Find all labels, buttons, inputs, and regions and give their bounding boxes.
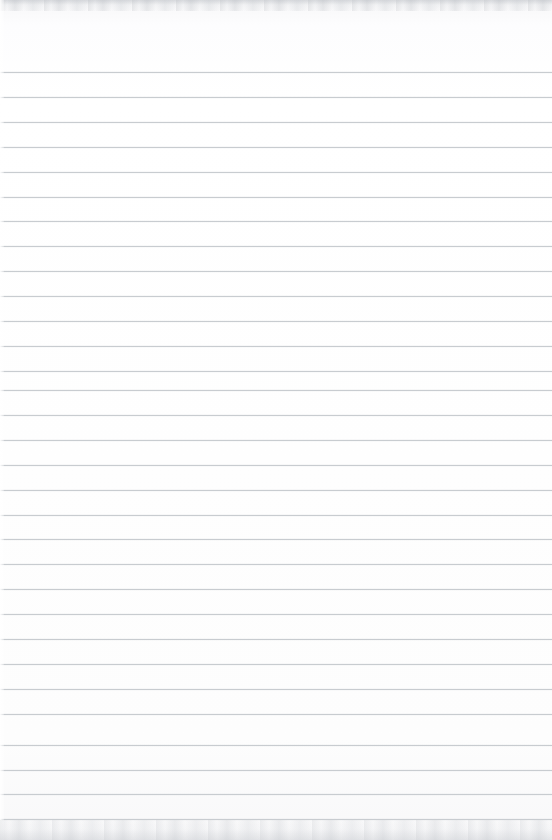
rule-line (0, 346, 552, 347)
rule-line (0, 745, 552, 746)
rule-line (0, 72, 552, 73)
rule-line (0, 539, 552, 540)
rule-line (0, 172, 552, 173)
left-edge-highlight (0, 0, 4, 840)
ruled-lines-layer (0, 0, 552, 840)
rule-line (0, 515, 552, 516)
rule-line (0, 770, 552, 771)
rule-line (0, 371, 552, 372)
rule-line (0, 147, 552, 148)
rule-line (0, 415, 552, 416)
rule-line (0, 197, 552, 198)
rule-line (0, 221, 552, 222)
rule-line (0, 714, 552, 715)
scanned-page (0, 0, 552, 840)
rule-line (0, 440, 552, 441)
rule-line (0, 639, 552, 640)
rule-line (0, 390, 552, 391)
rule-line (0, 689, 552, 690)
rule-line (0, 246, 552, 247)
rule-line (0, 589, 552, 590)
rule-line (0, 271, 552, 272)
rule-line (0, 97, 552, 98)
rule-line (0, 465, 552, 466)
rule-line (0, 122, 552, 123)
rule-line (0, 490, 552, 491)
rule-line (0, 614, 552, 615)
scan-edge-band-bottom (0, 820, 552, 840)
rule-line (0, 296, 552, 297)
rule-line (0, 321, 552, 322)
rule-line (0, 664, 552, 665)
rule-line (0, 564, 552, 565)
rule-line (0, 794, 552, 795)
